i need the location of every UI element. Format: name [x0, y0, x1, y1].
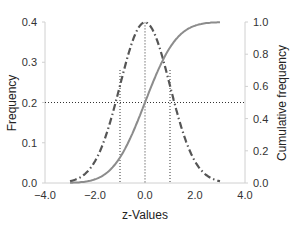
cumulative-frequency-curve [70, 22, 220, 183]
y2-tick-label: 0.6 [253, 80, 268, 92]
y-tick-label: 0.3 [22, 56, 37, 68]
y2-tick-label: 0.4 [253, 113, 268, 125]
y-tick-label: 0.0 [22, 177, 37, 189]
y-axis-label: Frequency [5, 75, 19, 132]
chart: 0.00.10.20.30.40.00.20.40.60.81.0−4.0−2.… [0, 0, 295, 230]
y-tick-label: 0.4 [22, 16, 37, 28]
x-tick-label: 2.0 [187, 189, 202, 201]
x-axis-label: z-Values [122, 208, 168, 222]
y-tick-label: 0.1 [22, 137, 37, 149]
y2-axis-label: Cumulative frequency [275, 45, 289, 161]
y2-tick-label: 1.0 [253, 16, 268, 28]
y2-tick-label: 0.2 [253, 145, 268, 157]
x-tick-label: 0.0 [137, 189, 152, 201]
x-tick-label: −2.0 [84, 189, 106, 201]
y2-tick-label: 0.8 [253, 48, 268, 60]
y-tick-label: 0.2 [22, 97, 37, 109]
x-tick-label: −4.0 [34, 189, 56, 201]
y2-tick-label: 0.0 [253, 177, 268, 189]
x-tick-label: 4.0 [237, 189, 252, 201]
series [70, 22, 220, 183]
